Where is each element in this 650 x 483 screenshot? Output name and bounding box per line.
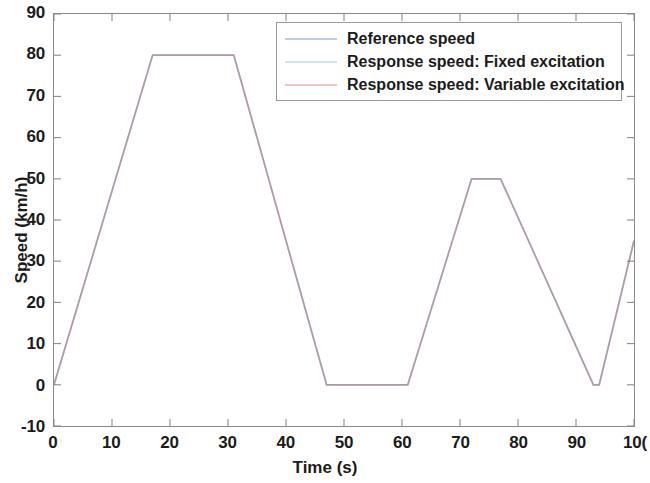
y-tick-label: 10 [0,334,45,354]
legend-line-swatch [285,38,337,40]
x-tick-label: 20 [160,433,179,453]
x-tick-label: 70 [451,433,470,453]
y-tick-label: -10 [0,417,45,437]
legend-label: Response speed: Fixed excitation [347,54,605,70]
series-line [54,55,634,385]
y-axis-title: Speed (km/h) [12,140,32,320]
legend-entry[interactable]: Response speed: Fixed excitation [277,50,621,73]
x-tick-label: 80 [509,433,528,453]
x-tick-label: 10( [623,433,647,453]
legend-label: Response speed: Variable excitation [347,77,624,93]
y-tick-label: 90 [0,3,45,23]
x-tick-label: 50 [335,433,354,453]
x-tick-label: 60 [393,433,412,453]
x-tick-label: 0 [48,433,57,453]
x-tick-label: 10 [102,433,121,453]
series-line [54,55,634,385]
y-tick-label: 0 [0,376,45,396]
y-tick-label: 80 [0,44,45,64]
x-tick-label: 30 [218,433,237,453]
legend-box: Reference speedResponse speed: Fixed exc… [276,22,622,101]
y-tick-label: 70 [0,86,45,106]
figure-canvas: -100102030405060708090 01020304050607080… [0,0,650,483]
series-group [54,55,634,385]
x-tick-label: 90 [568,433,587,453]
legend-entry[interactable]: Reference speed [277,27,621,50]
series-line [54,55,634,385]
x-axis-title: Time (s) [0,458,650,478]
legend-line-swatch [285,61,337,63]
legend-entry[interactable]: Response speed: Variable excitation [277,73,621,96]
legend-label: Reference speed [347,31,475,47]
legend-line-swatch [285,84,337,86]
x-tick-label: 40 [277,433,296,453]
